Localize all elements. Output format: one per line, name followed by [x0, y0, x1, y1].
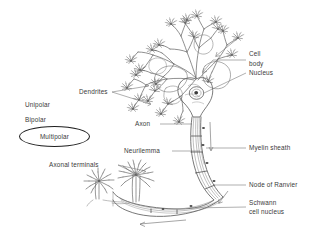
- neuron-type-unipolar[interactable]: Unipolar: [25, 101, 50, 109]
- label-nucleus: Nucleus: [249, 69, 273, 77]
- nodes-of-ranvier: [151, 136, 215, 214]
- neuron-type-multipolar-selected[interactable]: Multipolar: [19, 126, 90, 147]
- nucleus: [189, 87, 203, 100]
- dendrite-tree: [127, 16, 238, 122]
- myelinated-axon: [113, 117, 223, 216]
- neuron-diagram-figure: Unipolar Bipolar Multipolar Dendrites Ce…: [0, 0, 320, 235]
- label-body: body: [249, 60, 263, 68]
- label-dendrites: Dendrites: [79, 88, 108, 96]
- label-axon: Axon: [135, 120, 150, 128]
- neuron-type-bipolar[interactable]: Bipolar: [25, 116, 46, 124]
- label-node-of-ranvier: Node of Ranvier: [249, 181, 297, 189]
- label-neurilemma: Neurilemma: [124, 147, 160, 155]
- label-cell: Cell: [249, 50, 261, 58]
- schwann-cell-nuclei: [162, 127, 216, 210]
- label-schwann: Schwann: [249, 199, 276, 207]
- label-myelin-sheath: Myelin sheath: [249, 144, 290, 152]
- neuron-type-multipolar-label: Multipolar: [20, 127, 89, 146]
- label-axonal-terminals: Axonal terminals: [49, 161, 99, 169]
- label-schwann-cell-nucleus: cell nucleus: [249, 208, 284, 216]
